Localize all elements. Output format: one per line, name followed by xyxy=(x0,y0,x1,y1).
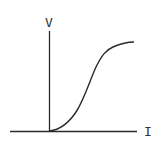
vi-plot xyxy=(0,0,163,142)
y-axis-label: V xyxy=(45,16,53,29)
vi-curve xyxy=(50,42,135,131)
x-axis-label: I xyxy=(144,125,152,138)
vi-diagram: V I xyxy=(0,0,163,142)
